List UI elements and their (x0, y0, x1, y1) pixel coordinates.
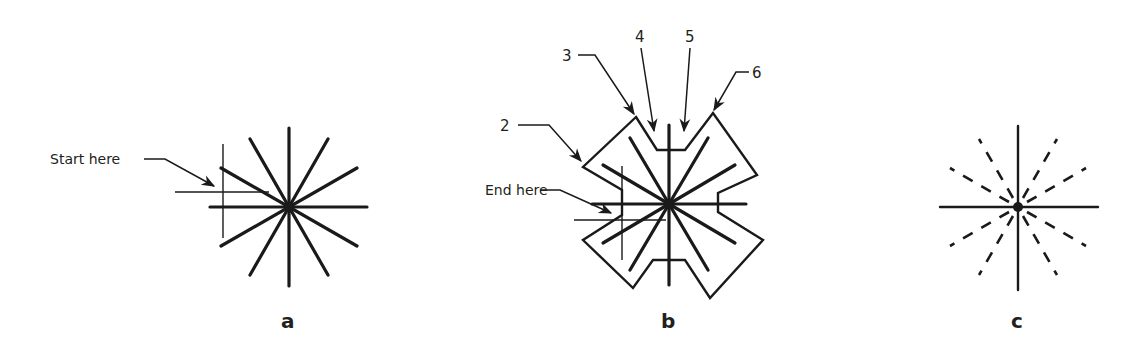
star-rays-a (210, 128, 367, 286)
panel-c: c (940, 126, 1098, 333)
callout-6-arrow (714, 72, 749, 110)
panel-label-a: a (281, 309, 295, 333)
callout-4: 4 (635, 28, 645, 46)
star-rays-b (592, 125, 746, 285)
end-here-arrow (540, 190, 611, 213)
callout-2: 2 (500, 117, 510, 135)
panel-label-b: b (661, 309, 675, 333)
callout-3-arrow (578, 55, 634, 114)
callout-5: 5 (685, 28, 695, 46)
panel-a: Start here a (50, 128, 367, 333)
panel-label-c: c (1011, 309, 1023, 333)
star-rays-c (940, 126, 1098, 290)
panel-b: 2 3 4 5 6 End here b (485, 28, 763, 333)
start-here-arrow (144, 159, 214, 186)
figure-canvas: Start here a 2 3 4 5 6 End here (0, 0, 1137, 353)
callout-3: 3 (562, 47, 572, 65)
callout-5-arrow (684, 48, 690, 131)
callout-2-arrow (518, 125, 581, 161)
start-here-label: Start here (50, 151, 120, 167)
callout-4-arrow (641, 48, 654, 131)
callout-6: 6 (752, 64, 762, 82)
end-here-label: End here (485, 182, 548, 198)
